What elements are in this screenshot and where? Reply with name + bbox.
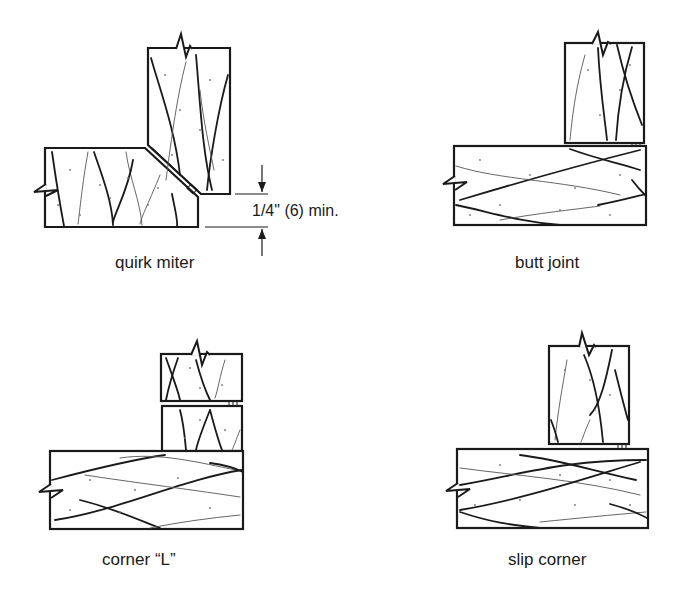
caption-slip-corner: slip corner	[508, 550, 586, 570]
dimension-label: 1/4" (6) min.	[252, 202, 339, 220]
slip-corner-drawing	[446, 333, 648, 528]
corner-l-drawing	[39, 341, 243, 529]
butt-joint-drawing	[443, 32, 646, 225]
dimension-suffix: min.	[308, 202, 338, 219]
dimension-imperial: 1/4"	[252, 202, 280, 219]
caption-butt-joint: butt joint	[515, 253, 579, 273]
caption-quirk-miter: quirk miter	[115, 253, 194, 273]
joint-diagram	[0, 0, 693, 600]
caption-corner-l: corner “L”	[102, 550, 176, 570]
dimension-metric: (6)	[284, 202, 304, 219]
quirk-miter-drawing	[34, 34, 268, 256]
